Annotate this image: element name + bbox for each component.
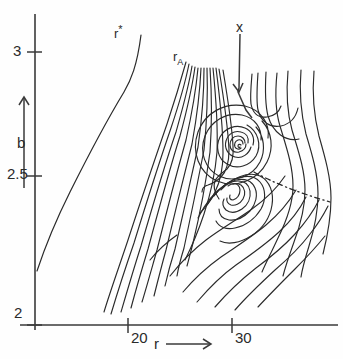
x-axis-label: r xyxy=(154,336,159,351)
spiral-loop-4 xyxy=(221,181,250,212)
y-tick-label-2p5: 2.5 xyxy=(7,166,28,181)
curve-r-star xyxy=(37,35,141,271)
y-tick-label-3: 3 xyxy=(13,43,21,58)
contour-bottom-20 xyxy=(215,200,319,307)
contour-ur-3 xyxy=(265,72,299,140)
contour-plot-figure: 3 2.5 2 b 20 30 r r* rA x xyxy=(0,0,343,359)
spiral-focus-group xyxy=(195,105,272,243)
contour-bottom-22 xyxy=(258,236,325,307)
contour-right-15 xyxy=(300,70,318,277)
curve-label-r-star: r* xyxy=(114,24,123,40)
y-axis-label: b xyxy=(17,135,25,150)
contour-bottom-19 xyxy=(197,197,306,302)
plot-canvas xyxy=(0,0,343,359)
spiral-loop-6 xyxy=(230,184,240,200)
x-tick-label-30: 30 xyxy=(235,330,252,345)
spiral-loop-5 xyxy=(227,184,245,206)
contour-bottom-17 xyxy=(170,176,285,276)
contour-right-14 xyxy=(283,71,305,276)
y-tick-label-2: 2 xyxy=(14,305,22,320)
contour-bundle-left xyxy=(104,62,212,314)
contour-left-04 xyxy=(131,67,195,308)
r-star-superscript: * xyxy=(118,23,122,35)
curve-label-r-A: rA xyxy=(173,50,183,67)
x-marker-label: x xyxy=(236,20,243,34)
contour-bundle-right xyxy=(262,70,331,277)
spiral-inner-e xyxy=(238,144,241,147)
r-A-subscript: A xyxy=(177,57,183,67)
x-tick-label-20: 20 xyxy=(131,330,148,345)
x-axis-arrow xyxy=(166,339,211,349)
